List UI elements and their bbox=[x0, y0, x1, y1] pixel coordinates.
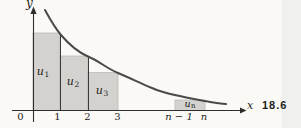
u2-subscript: 2 bbox=[74, 80, 79, 89]
x-tick-1: 1 bbox=[54, 112, 60, 122]
un-subscript: n bbox=[191, 102, 196, 110]
u2-base: u bbox=[67, 75, 74, 88]
x-tick-2: 2 bbox=[84, 112, 90, 122]
x-tick-n: n bbox=[201, 112, 207, 122]
u1-base: u bbox=[37, 65, 44, 78]
x-tick-0: 0 bbox=[17, 112, 23, 122]
u1-subscript: 1 bbox=[44, 70, 49, 79]
rect-label-u1: u1 bbox=[37, 66, 49, 79]
x-axis-label: x bbox=[247, 100, 253, 111]
rect-label-u3: u3 bbox=[96, 84, 108, 97]
x-tick-3: 3 bbox=[114, 112, 120, 122]
y-axis-label: y bbox=[26, 0, 33, 9]
rect-label-u2: u2 bbox=[67, 76, 79, 89]
u3-base: u bbox=[96, 83, 103, 96]
figure-number: 18.6 bbox=[262, 100, 287, 111]
un-base: u bbox=[184, 98, 190, 109]
x-tick-n-minus-1: n − 1 bbox=[165, 112, 193, 122]
diagram-canvas bbox=[0, 0, 301, 128]
u3-subscript: 3 bbox=[103, 88, 108, 97]
rect-label-un: un bbox=[184, 99, 195, 111]
figure-18-6: y x 0 1 2 3 n − 1 n u1 u2 u3 un 18.6 bbox=[0, 0, 301, 128]
